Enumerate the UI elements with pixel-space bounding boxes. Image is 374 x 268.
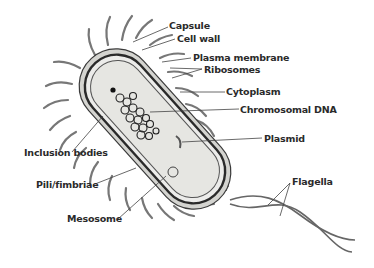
label-cell-wall: Cell wall	[177, 33, 220, 44]
label-pili-fimbriae: Pili/fimbriae	[36, 179, 99, 190]
label-chromosomal-dna: Chromosomal DNA	[240, 104, 337, 115]
label-inclusion-bodies: Inclusion bodies	[24, 147, 108, 158]
label-cytoplasm: Cytoplasm	[226, 86, 280, 97]
label-flagella: Flagella	[292, 176, 333, 187]
label-plasmid: Plasmid	[264, 133, 305, 144]
bacterial-cell-diagram: Capsule Cell wall Plasma membrane Riboso…	[0, 0, 374, 268]
label-capsule: Capsule	[169, 20, 210, 31]
flagella-shape	[230, 196, 355, 252]
inclusion-body-shape	[110, 87, 115, 92]
label-ribosomes: Ribosomes	[204, 64, 260, 75]
label-mesosome: Mesosome	[67, 213, 122, 224]
label-plasma-membrane: Plasma membrane	[193, 52, 289, 63]
